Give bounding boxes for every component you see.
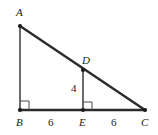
measure-label-BE: 6 [48,117,54,128]
vertex-label-C: C [141,117,148,128]
vertex-dot-A [18,24,22,28]
measure-label-DE: 4 [71,83,77,94]
measure-label-EC: 6 [111,117,117,128]
geometry-figure: A B C D E 6 6 4 [0,0,158,135]
vertex-dot-D [81,68,85,72]
vertex-dot-E [81,108,85,112]
vertex-dot-C [143,108,147,112]
vertex-label-B: B [16,117,23,128]
vertex-dot-B [18,108,22,112]
vertex-label-D: D [82,55,90,66]
vertex-label-E: E [79,117,86,128]
vertex-label-A: A [16,7,23,18]
geometry-canvas [0,0,158,135]
right-angle-marker-group [20,101,92,110]
